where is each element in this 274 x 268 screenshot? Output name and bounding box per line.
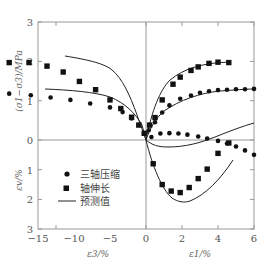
legend-label-extension: 轴伸长 (80, 182, 110, 194)
data-point (61, 69, 66, 74)
data-point (176, 131, 181, 136)
data-point (216, 139, 221, 144)
data-point (252, 87, 257, 92)
data-point (225, 87, 230, 92)
data-point (215, 151, 220, 156)
data-point (198, 91, 203, 96)
data-point (234, 87, 239, 92)
data-point (68, 98, 73, 103)
x-tick-label: −10 (63, 233, 84, 244)
data-point (158, 131, 163, 136)
data-point (205, 166, 210, 171)
x-tick-label: −5 (103, 233, 118, 244)
data-point (108, 105, 113, 110)
x-tick-labels: −15 −10 −5 0 2 4 6 (27, 233, 257, 244)
data-point (29, 93, 34, 98)
legend-square-marker (64, 186, 70, 192)
y-lower-tick-labels: 1 2 3 (27, 165, 33, 235)
data-point (178, 96, 183, 101)
data-point (146, 128, 151, 133)
data-point (152, 115, 157, 120)
prediction-curve-extension-e3 (65, 56, 146, 140)
x-left-axis-title: ε3/% (87, 249, 109, 259)
legend-label-compression: 三轴压缩 (80, 168, 120, 180)
data-point (215, 59, 220, 64)
y-upper-axis-title: (σ1−σ3)/MPa (14, 50, 24, 112)
data-point (167, 103, 172, 108)
prediction-curve-compression-ev (146, 123, 254, 147)
y-tick-label: 1 (27, 96, 33, 107)
data-point (178, 74, 183, 79)
data-point (160, 182, 165, 187)
data-point (44, 63, 49, 68)
data-point (252, 153, 257, 158)
data-point (234, 144, 239, 149)
data-point (88, 101, 93, 106)
data-point (142, 131, 147, 136)
data-point (170, 81, 175, 86)
data-point (196, 176, 201, 181)
x-tick-label: 2 (179, 233, 185, 244)
chart: −15 −10 −5 0 2 4 6 0 1 2 3 1 2 3 (σ1−σ3)… (0, 0, 274, 268)
data-point (129, 115, 134, 120)
data-point (48, 95, 53, 100)
data-point (243, 87, 248, 92)
y-upper-tick-labels: 0 1 2 3 (27, 17, 33, 146)
legend: 三轴压缩 轴伸长 预测值 (58, 168, 120, 207)
prediction-curve-compression-e3 (45, 89, 146, 140)
legend-circle-marker (64, 171, 69, 176)
data-point (188, 68, 193, 73)
data-point (226, 140, 231, 145)
data-point (7, 91, 12, 96)
data-point (189, 93, 194, 98)
y-lower-axis-title: εv/% (14, 169, 24, 191)
x-right-axis-title: ε1/% (189, 249, 211, 259)
data-point (149, 135, 154, 140)
data-point (167, 131, 172, 136)
data-point (151, 161, 156, 166)
data-point (207, 89, 212, 94)
data-point (153, 120, 158, 125)
prediction-curve-extension-ev (146, 140, 233, 202)
y-tick-label: 3 (27, 17, 33, 28)
data-point (26, 60, 31, 65)
data-point (216, 88, 221, 93)
data-point (226, 60, 231, 65)
data-point (77, 79, 82, 84)
legend-label-prediction: 预测值 (80, 195, 110, 207)
data-point (178, 190, 183, 195)
data-point (107, 97, 112, 102)
data-point (205, 136, 210, 141)
data-point (147, 122, 152, 127)
y-tick-label: 3 (27, 224, 33, 235)
data-point (206, 61, 211, 66)
data-point (169, 188, 174, 193)
y-tick-label: 0 (27, 135, 33, 146)
data-point (93, 87, 98, 92)
prediction-curve-extension-e1 (146, 62, 230, 140)
x-tick-label: 0 (143, 233, 149, 244)
x-tick-label: 4 (215, 233, 221, 244)
data-point (160, 97, 165, 102)
data-point (7, 60, 12, 65)
data-point (118, 106, 123, 111)
y-tick-label: 1 (27, 165, 33, 176)
data-point (160, 110, 165, 115)
data-point (185, 132, 190, 137)
data-point (243, 148, 248, 153)
data-point (136, 122, 141, 127)
data-point (196, 64, 201, 69)
data-point (187, 185, 192, 190)
data-point (196, 134, 201, 139)
y-tick-label: 2 (27, 194, 33, 205)
x-tick-label: 6 (251, 233, 257, 244)
